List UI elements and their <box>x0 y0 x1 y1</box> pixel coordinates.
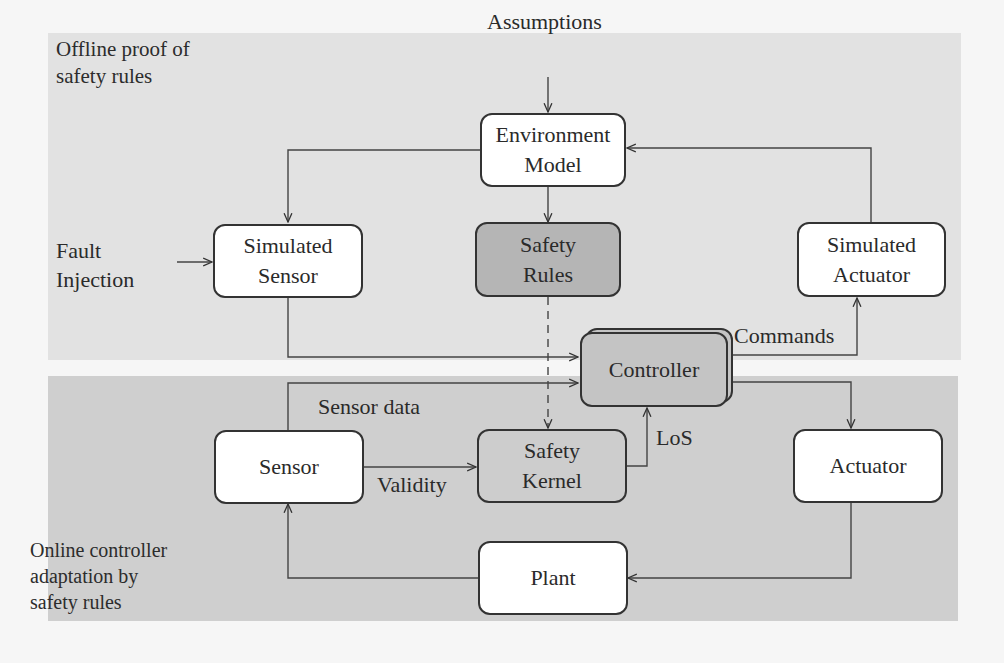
assumptions-input-label: Assumptions <box>487 8 602 36</box>
sensor-data-edge-label: Sensor data <box>318 393 420 421</box>
sensor-node: Sensor <box>214 430 364 504</box>
los-edge-label: LoS <box>656 424 693 452</box>
online-region-label: Online controller adaptation by safety r… <box>30 537 167 615</box>
environment-model-node: Environment Model <box>480 113 626 187</box>
plant-node: Plant <box>478 541 628 615</box>
actuator-node: Actuator <box>793 429 943 503</box>
safety-kernel-node: Safety Kernel <box>477 429 627 503</box>
simulated-sensor-node: Simulated Sensor <box>213 224 363 298</box>
safety-rules-node: Safety Rules <box>475 222 621 297</box>
commands-edge-label: Commands <box>734 322 834 350</box>
validity-edge-label: Validity <box>377 471 447 499</box>
offline-region-label: Offline proof of safety rules <box>56 36 190 90</box>
controller-node: Controller <box>580 332 728 407</box>
simulated-actuator-node: Simulated Actuator <box>797 222 946 297</box>
fault-injection-input-label: Fault Injection <box>56 236 134 294</box>
